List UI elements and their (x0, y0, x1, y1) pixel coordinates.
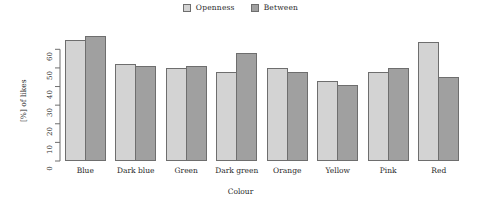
bar-between (388, 68, 409, 161)
bar-between (287, 72, 308, 161)
x-axis-tick-labels: BlueDark blueGreenDark greenOrangeYellow… (60, 167, 464, 175)
bar-openness (216, 72, 237, 161)
bar-group (212, 40, 263, 161)
y-axis-tick-label: 0 (47, 161, 54, 177)
bar-group (60, 40, 111, 161)
bar-group (262, 40, 313, 161)
bar-openness (368, 72, 389, 161)
bar-group (363, 40, 414, 161)
bar-openness (115, 64, 136, 161)
bar-openness (65, 40, 86, 161)
bar-openness (166, 68, 187, 161)
chart-legend: Openness Between (0, 4, 481, 12)
legend-entry-openness: Openness (183, 4, 235, 12)
x-axis-tick-label: Blue (60, 167, 111, 175)
bar-openness (317, 81, 338, 161)
x-axis-title: Colour (0, 188, 481, 196)
bar-between (186, 66, 207, 161)
bar-group (414, 40, 465, 161)
y-axis-tick-label: 50 (47, 67, 54, 83)
x-axis-tick-label: Yellow (313, 167, 364, 175)
x-axis-tick-label: Dark green (212, 167, 263, 175)
bar-openness (418, 42, 439, 161)
bar-groups (60, 40, 464, 161)
x-axis-tick-label: Pink (363, 167, 414, 175)
bar-chart: Openness Between [%] of likes 0102030405… (0, 0, 481, 211)
y-axis-tick-label: 30 (47, 105, 54, 121)
bar-between (337, 85, 358, 161)
legend-label-between: Between (264, 4, 299, 12)
legend-swatch-openness-icon (183, 4, 191, 12)
bar-openness (267, 68, 288, 161)
bar-group (313, 40, 364, 161)
plot-area (60, 40, 464, 161)
bar-group (111, 40, 162, 161)
y-axis-title: [%] of likes (17, 40, 29, 161)
bar-between (438, 77, 459, 161)
x-axis-tick-label: Orange (262, 167, 313, 175)
bar-between (135, 66, 156, 161)
y-axis-tick-label: 20 (47, 123, 54, 139)
legend-swatch-between-icon (251, 4, 259, 12)
bar-group (161, 40, 212, 161)
legend-entry-between: Between (251, 4, 299, 12)
x-axis-tick-label: Red (414, 167, 465, 175)
x-axis-tick-label: Dark blue (111, 167, 162, 175)
x-axis-tick-label: Green (161, 167, 212, 175)
bar-between (236, 53, 257, 161)
bar-between (85, 36, 106, 161)
y-axis-tick-label: 10 (47, 142, 54, 158)
y-axis-tick-label: 40 (47, 86, 54, 102)
y-axis-title-text: [%] of likes (19, 79, 27, 122)
y-axis-tick-label: 60 (47, 49, 54, 65)
legend-label-openness: Openness (196, 4, 235, 12)
